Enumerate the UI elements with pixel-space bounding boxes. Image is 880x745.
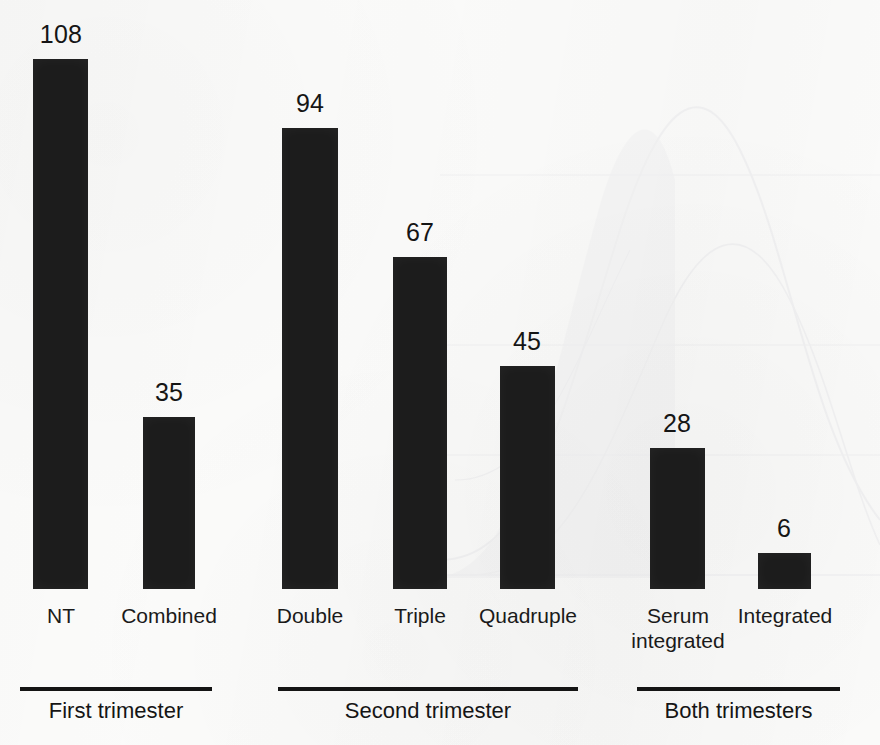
bar-value-integrated: 6 bbox=[753, 516, 815, 541]
bar-nt bbox=[33, 59, 88, 589]
group-rule-both-trimesters bbox=[637, 687, 840, 691]
bar-value-quadruple: 45 bbox=[496, 329, 558, 354]
group-rule-second-trimester bbox=[278, 687, 578, 691]
bar-triple bbox=[393, 257, 447, 589]
bar-label-serum-integrated: Serum integrated bbox=[624, 603, 732, 653]
bar-label-triple: Triple bbox=[380, 603, 460, 628]
bar-label-double: Double bbox=[265, 603, 355, 628]
bar-serum-integrated bbox=[650, 448, 705, 589]
bar-combined bbox=[143, 417, 195, 589]
bar-value-combined: 35 bbox=[138, 380, 200, 405]
bar-value-nt: 108 bbox=[30, 22, 92, 47]
bar-label-integrated: Integrated bbox=[730, 603, 840, 628]
group-label-first-trimester: First trimester bbox=[14, 700, 218, 722]
bar-integrated bbox=[758, 553, 811, 589]
group-label-both-trimesters: Both trimesters bbox=[637, 700, 840, 722]
group-label-second-trimester: Second trimester bbox=[278, 700, 578, 722]
bar-label-combined: Combined bbox=[119, 603, 219, 628]
plot-area: 108 NT 35 Combined 94 Double 67 Triple 4… bbox=[0, 0, 880, 745]
bar-label-nt: NT bbox=[23, 603, 99, 628]
bar-quadruple bbox=[500, 366, 555, 589]
group-rule-first-trimester bbox=[20, 687, 212, 691]
bar-double bbox=[282, 128, 338, 589]
bar-value-double: 94 bbox=[279, 91, 341, 116]
bar-value-triple: 67 bbox=[389, 220, 451, 245]
bar-label-quadruple: Quadruple bbox=[472, 603, 584, 628]
bar-value-serum-integrated: 28 bbox=[646, 411, 708, 436]
bar-chart-figure: 108 NT 35 Combined 94 Double 67 Triple 4… bbox=[0, 0, 880, 745]
